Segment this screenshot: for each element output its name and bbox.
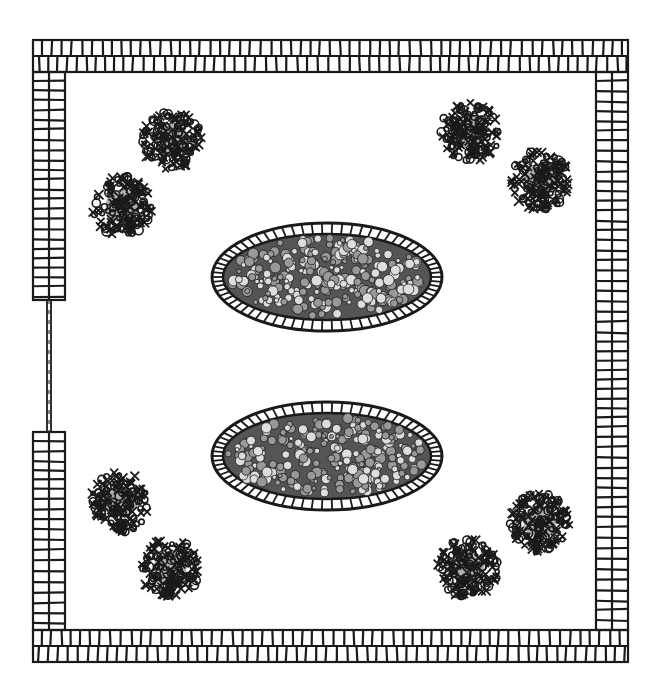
shrub-bottom-left-1: [88, 469, 151, 536]
shrub-top-right-1: [437, 99, 501, 164]
shrub-top-left-1: [139, 109, 205, 172]
gate: [47, 300, 51, 432]
garden-plan: [0, 0, 662, 698]
shrub-top-right-2: [507, 148, 572, 213]
lower-flower-bed: [212, 402, 442, 510]
shrub-top-left-2: [89, 173, 156, 238]
brick-wall: [33, 40, 628, 662]
shrub-bottom-left-2: [138, 537, 201, 600]
shrub-bottom-right-1: [507, 490, 573, 555]
upper-flower-bed: [212, 223, 442, 331]
shrub-bottom-right-2: [434, 536, 501, 600]
